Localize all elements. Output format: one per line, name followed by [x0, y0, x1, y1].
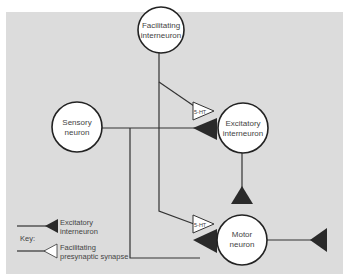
sensory-label-line2: neuron [65, 128, 90, 137]
excitatory-label-line2: interneuron [223, 129, 263, 138]
lower-synapse-label: 5-HT [194, 222, 207, 228]
neuron-sensory: Sensory neuron [52, 102, 102, 152]
key-facilitating-label-line1: Facilitating [60, 243, 96, 252]
excitatory-label-line1: Excitatory [225, 119, 260, 128]
motor-label-line1: Motor [232, 230, 253, 239]
neuron-excitatory-interneuron: Excitatory interneuron [218, 103, 268, 153]
diagram-panel [6, 12, 343, 274]
neuron-facilitating: Facilitating interneuron [138, 7, 184, 53]
key-facilitating-label-line2: presynaptic synapse [60, 252, 128, 261]
key-excitatory-label-line2: interneuron [60, 227, 98, 236]
key-excitatory-label-line1: Excitatory [60, 218, 93, 227]
neuron-motor: Motor neuron [217, 215, 267, 265]
motor-label-line2: neuron [230, 240, 255, 249]
key-title: Key: [20, 234, 35, 243]
neural-circuit-diagram: 5-HT 5-HT Facilitating interneuron Senso… [0, 0, 354, 279]
facilitating-label-line1: Facilitating [142, 21, 180, 30]
sensory-label-line1: Sensory [62, 118, 91, 127]
upper-synapse-label: 5-HT [194, 109, 207, 115]
facilitating-label-line2: interneuron [141, 31, 181, 40]
